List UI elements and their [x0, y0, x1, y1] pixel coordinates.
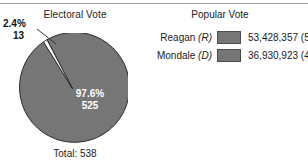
electoral-vote-panel: Electoral Vote 97.6% 525 2.4% 13 Total: … [0, 0, 150, 168]
popular-vote-panel: Popular Vote Reagan (R) 53,428,357 (58.4… [150, 0, 308, 168]
electoral-total-label: Total: 538 [0, 148, 150, 159]
legend-label-reagan: Reagan (R) [150, 32, 217, 43]
legend-candidate-name: Mondale [157, 50, 195, 61]
legend-value-reagan: 53,428,357 (58.4%) [241, 32, 308, 43]
pie-callout-mondale-percent: 2.4% [3, 18, 26, 29]
legend-value-mondale: 36,930,923 (41.6%) [241, 50, 308, 61]
legend-party-mondale: (D) [198, 50, 212, 61]
popular-chart-title: Popular Vote [150, 9, 290, 20]
pie-label-reagan-percent: 97.6% [58, 88, 122, 99]
legend-swatch-reagan [217, 31, 241, 44]
legend-row-reagan[interactable]: Reagan (R) 53,428,357 (58.4%) [150, 29, 308, 45]
pie-label-reagan-votes: 525 [58, 100, 122, 111]
legend-party-reagan: (R) [198, 32, 212, 43]
pie-callout-mondale-votes: 13 [13, 30, 24, 41]
legend-swatch-mondale [217, 49, 241, 62]
callout-leader-line [36, 28, 58, 46]
legend-row-mondale[interactable]: Mondale (D) 36,930,923 (41.6%) [150, 47, 308, 63]
legend-label-mondale: Mondale (D) [150, 50, 217, 61]
legend-candidate-name: Reagan [160, 32, 195, 43]
